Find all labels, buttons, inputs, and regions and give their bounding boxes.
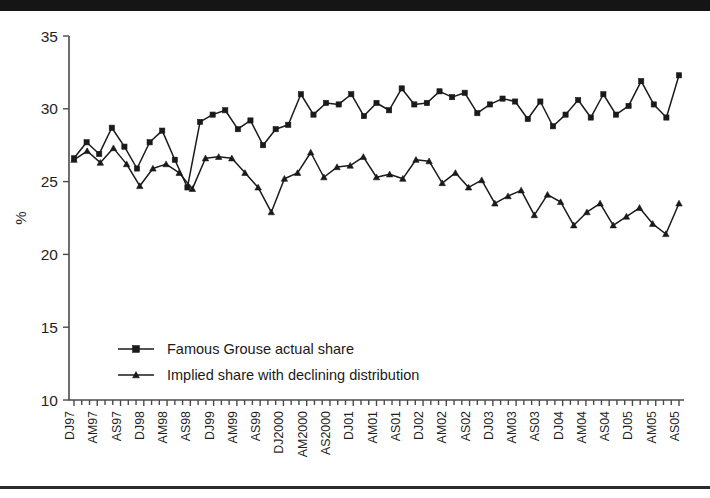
square-marker bbox=[84, 140, 89, 145]
square-marker bbox=[223, 108, 228, 113]
square-marker bbox=[588, 115, 593, 120]
square-marker bbox=[563, 112, 568, 117]
x-tick-label: DJ05 bbox=[621, 411, 635, 440]
x-tick-label: DJ03 bbox=[482, 411, 496, 440]
square-marker bbox=[525, 116, 530, 121]
triangle-marker bbox=[84, 148, 90, 154]
x-tick-label: DJ99 bbox=[203, 411, 217, 440]
x-tick-label: DJ01 bbox=[342, 411, 356, 440]
square-marker bbox=[399, 86, 404, 91]
x-tick-label: AM04 bbox=[575, 411, 589, 443]
square-marker bbox=[374, 100, 379, 105]
y-axis-title: % bbox=[12, 211, 29, 224]
triangle-marker bbox=[518, 187, 524, 193]
square-marker bbox=[576, 97, 581, 102]
y-tick-label: 30 bbox=[41, 100, 59, 117]
y-tick-label: 25 bbox=[41, 173, 58, 190]
square-marker bbox=[336, 102, 341, 107]
square-marker bbox=[286, 122, 291, 127]
square-marker bbox=[500, 96, 505, 101]
triangle-marker bbox=[110, 145, 116, 151]
x-tick-label: AM03 bbox=[505, 411, 519, 443]
x-tick-label: AM01 bbox=[366, 411, 380, 443]
square-marker bbox=[273, 127, 278, 132]
x-tick-label: AS02 bbox=[459, 411, 473, 441]
square-marker bbox=[424, 100, 429, 105]
triangle-marker bbox=[268, 209, 274, 215]
square-marker bbox=[538, 99, 543, 104]
square-marker bbox=[122, 144, 127, 149]
top-black-band bbox=[0, 0, 710, 11]
square-marker bbox=[387, 108, 392, 113]
square-marker bbox=[412, 102, 417, 107]
square-marker bbox=[160, 128, 165, 133]
square-marker bbox=[651, 102, 656, 107]
triangle-marker bbox=[544, 192, 550, 198]
square-marker bbox=[450, 95, 455, 100]
square-marker bbox=[109, 125, 114, 130]
x-tick-label: DJ97 bbox=[63, 411, 77, 440]
legend-label-2: Implied share with declining distributio… bbox=[167, 367, 419, 383]
x-tick-label: AS98 bbox=[179, 411, 193, 441]
triangle-marker bbox=[597, 200, 603, 206]
square-marker bbox=[147, 140, 152, 145]
square-marker bbox=[197, 119, 202, 124]
y-tick-label: 35 bbox=[41, 28, 58, 45]
square-marker bbox=[513, 99, 518, 104]
square-marker bbox=[462, 90, 467, 95]
x-tick-label: AS05 bbox=[668, 411, 682, 441]
square-marker bbox=[298, 92, 303, 97]
square-marker bbox=[311, 112, 316, 117]
square-marker bbox=[639, 79, 644, 84]
square-marker bbox=[437, 89, 442, 94]
square-marker bbox=[613, 112, 618, 117]
x-tick-label: AM98 bbox=[156, 411, 170, 443]
series-line-2 bbox=[74, 148, 679, 234]
square-marker bbox=[626, 103, 631, 108]
triangle-marker bbox=[452, 170, 458, 176]
line-chart-canvas: 101520253035%DJ97AM97AS97DJ98AM98AS98DJ9… bbox=[0, 11, 710, 486]
square-marker bbox=[349, 92, 354, 97]
square-marker bbox=[550, 124, 555, 129]
square-marker bbox=[134, 166, 139, 171]
y-tick-label: 20 bbox=[41, 246, 59, 263]
square-marker bbox=[664, 115, 669, 120]
triangle-marker bbox=[360, 154, 366, 160]
triangle-marker bbox=[479, 177, 485, 183]
square-marker bbox=[172, 157, 177, 162]
triangle-marker bbox=[557, 199, 563, 205]
triangle-marker bbox=[308, 149, 314, 155]
bottom-rule bbox=[0, 486, 710, 489]
x-tick-label: AS01 bbox=[389, 411, 403, 441]
x-tick-label: DJ98 bbox=[133, 411, 147, 440]
triangle-marker bbox=[386, 171, 392, 177]
square-marker bbox=[260, 143, 265, 148]
legend-label-1: Famous Grouse actual share bbox=[167, 341, 354, 357]
triangle-marker bbox=[163, 161, 169, 167]
square-marker bbox=[235, 127, 240, 132]
square-marker bbox=[475, 111, 480, 116]
square-marker bbox=[676, 73, 681, 78]
triangle-marker bbox=[676, 200, 682, 206]
y-tick-label: 15 bbox=[41, 319, 58, 336]
square-marker bbox=[133, 346, 140, 353]
x-tick-label: AS99 bbox=[249, 411, 263, 441]
square-marker bbox=[97, 151, 102, 156]
x-tick-label: DJ02 bbox=[412, 411, 426, 440]
x-tick-label: DJ2000 bbox=[272, 411, 286, 454]
square-marker bbox=[601, 92, 606, 97]
triangle-marker bbox=[492, 200, 498, 206]
x-tick-label: AM05 bbox=[645, 411, 659, 443]
x-tick-label: DJ04 bbox=[552, 411, 566, 440]
x-tick-label: AM2000 bbox=[296, 411, 310, 457]
square-marker bbox=[210, 112, 215, 117]
y-tick-label: 10 bbox=[41, 392, 59, 409]
x-tick-label: AS03 bbox=[528, 411, 542, 441]
square-marker bbox=[487, 102, 492, 107]
x-tick-label: AM02 bbox=[435, 411, 449, 443]
triangle-marker bbox=[636, 205, 642, 211]
square-marker bbox=[323, 100, 328, 105]
x-tick-label: AS2000 bbox=[319, 411, 333, 455]
x-tick-label: AS97 bbox=[110, 411, 124, 441]
square-marker bbox=[361, 113, 366, 118]
